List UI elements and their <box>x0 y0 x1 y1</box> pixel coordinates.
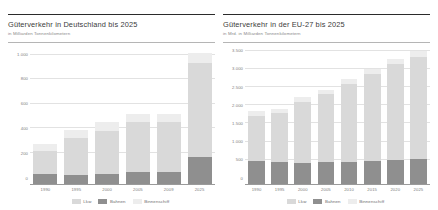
y-tick-label: 1.000 <box>232 139 243 144</box>
y-tick-label: 500 <box>236 157 243 162</box>
legend-swatch-icon <box>98 199 107 204</box>
bar-2005[interactable] <box>318 46 335 184</box>
y-tick-label: 200 <box>21 151 28 156</box>
bar-segment-binnenschiff <box>64 130 88 138</box>
bar-segment-lkw <box>318 94 335 162</box>
bar-2015[interactable] <box>364 46 381 184</box>
chart-title: Güterverkehr in Deutschland bis 2025 <box>8 21 215 29</box>
x-tick-label: 1995 <box>64 187 88 195</box>
bar-segment-bahnen <box>248 161 265 184</box>
x-tick-label: 1990 <box>248 187 265 195</box>
bar-segment-lkw <box>271 113 288 162</box>
x-tick-label: 2025 <box>188 187 212 195</box>
y-tick-label: 3.500 <box>232 48 243 53</box>
bar-segment-bahnen <box>294 163 311 184</box>
bar-segment-lkw <box>364 74 381 161</box>
y-tick-label: 0 <box>26 176 28 181</box>
bar-2020[interactable] <box>387 46 404 184</box>
title-rule-bottom <box>8 42 215 43</box>
x-axis: 1990 1995 2000 2005 2010 2015 2020 2025 <box>245 187 430 195</box>
y-tick-label: 1.500 <box>232 120 243 125</box>
bar-segment-bahnen <box>95 174 119 184</box>
plot-area-wrapper: 3.500 3.000 2.500 2.000 1.500 1.000 500 … <box>223 46 430 185</box>
title-rule-top <box>223 14 430 15</box>
legend-item-binnenschiff[interactable]: Binnenschiff <box>348 199 385 204</box>
x-tick-label: 1990 <box>33 187 57 195</box>
y-tick-label: 2.000 <box>232 102 243 107</box>
bar-2000[interactable] <box>95 46 119 184</box>
x-tick-label: 1995 <box>271 187 288 195</box>
x-tick-label: 2025 <box>410 187 427 195</box>
x-axis: 1990 1995 2000 2005 2009 2025 <box>30 187 215 195</box>
x-tick-label: 2020 <box>387 187 404 195</box>
bar-segment-lkw <box>410 57 427 160</box>
bar-2009[interactable] <box>157 46 181 184</box>
legend-item-bahnen[interactable]: Bahnen <box>98 199 125 204</box>
bar-segment-lkw <box>157 122 181 172</box>
bar-segment-lkw <box>387 64 404 160</box>
x-tick-label: 2005 <box>126 187 150 195</box>
bar-2000[interactable] <box>294 46 311 184</box>
legend: Lkw Bahnen Binnenschiff <box>223 199 430 204</box>
bar-2025[interactable] <box>410 46 427 184</box>
bar-segment-binnenschiff <box>33 144 57 151</box>
bar-group <box>30 46 215 184</box>
bar-segment-bahnen <box>341 162 358 184</box>
y-axis: 3.500 3.000 2.500 2.000 1.500 1.000 500 … <box>223 46 245 185</box>
figure-root: Güterverkehr in Deutschland bis 2025 in … <box>0 0 438 210</box>
bar-1995[interactable] <box>64 46 88 184</box>
y-tick-label: 2.500 <box>232 84 243 89</box>
x-tick-label: 2000 <box>294 187 311 195</box>
bar-segment-lkw <box>248 116 265 161</box>
bar-segment-bahnen <box>271 162 288 184</box>
bar-segment-binnenschiff <box>188 53 212 63</box>
chart-title: Güterverkehr in der EU-27 bis 2025 <box>223 21 430 29</box>
plot-area <box>245 46 430 185</box>
bar-segment-bahnen <box>387 160 404 184</box>
bar-2010[interactable] <box>341 46 358 184</box>
bar-segment-lkw <box>64 138 88 176</box>
bar-segment-bahnen <box>364 161 381 184</box>
legend-swatch-icon <box>313 199 322 204</box>
bar-segment-lkw <box>95 131 119 175</box>
bar-segment-binnenschiff <box>126 114 150 122</box>
x-tick-label: 2010 <box>341 187 358 195</box>
x-tick-label: 2009 <box>157 187 181 195</box>
legend-item-binnenschiff[interactable]: Binnenschiff <box>133 199 170 204</box>
bar-segment-lkw <box>33 151 57 174</box>
bar-segment-lkw <box>188 63 212 157</box>
legend: Lkw Bahnen Binnenschiff <box>8 199 215 204</box>
x-tick-label: 2000 <box>95 187 119 195</box>
legend-label: Bahnen <box>110 199 126 204</box>
title-rule-bottom <box>223 42 430 43</box>
bar-segment-bahnen <box>188 157 212 184</box>
chart-subtitle: in Milliarden Tonnenkilometern <box>8 32 215 37</box>
bar-2005[interactable] <box>126 46 150 184</box>
y-tick-label: 800 <box>21 75 28 80</box>
legend-swatch-icon <box>133 199 142 204</box>
bar-segment-bahnen <box>126 172 150 184</box>
y-tick-label: 400 <box>21 126 28 131</box>
bar-2025[interactable] <box>188 46 212 184</box>
chart-subtitle: in Mrd. in Milliarden Tonnenkilometern <box>223 32 430 37</box>
bar-segment-bahnen <box>64 175 88 184</box>
chart-panel-germany: Güterverkehr in Deutschland bis 2025 in … <box>8 14 215 204</box>
bar-1990[interactable] <box>33 46 57 184</box>
legend-swatch-icon <box>72 199 81 204</box>
bar-1995[interactable] <box>271 46 288 184</box>
legend-item-lkw[interactable]: Lkw <box>287 199 307 204</box>
x-tick-label: 2015 <box>364 187 381 195</box>
plot-area-wrapper: 1.000 800 600 400 200 0 <box>8 46 215 185</box>
bar-segment-binnenschiff <box>157 114 181 122</box>
y-tick-label: 600 <box>21 100 28 105</box>
legend-item-bahnen[interactable]: Bahnen <box>313 199 340 204</box>
bar-segment-bahnen <box>157 172 181 184</box>
legend-label: Lkw <box>298 199 306 204</box>
legend-label: Lkw <box>83 199 91 204</box>
chart-panel-eu27: Güterverkehr in der EU-27 bis 2025 in Mr… <box>223 14 430 204</box>
bar-segment-lkw <box>341 84 358 162</box>
bar-1990[interactable] <box>248 46 265 184</box>
legend-item-lkw[interactable]: Lkw <box>72 199 92 204</box>
y-tick-label: 0 <box>241 176 243 181</box>
y-axis: 1.000 800 600 400 200 0 <box>8 46 30 185</box>
